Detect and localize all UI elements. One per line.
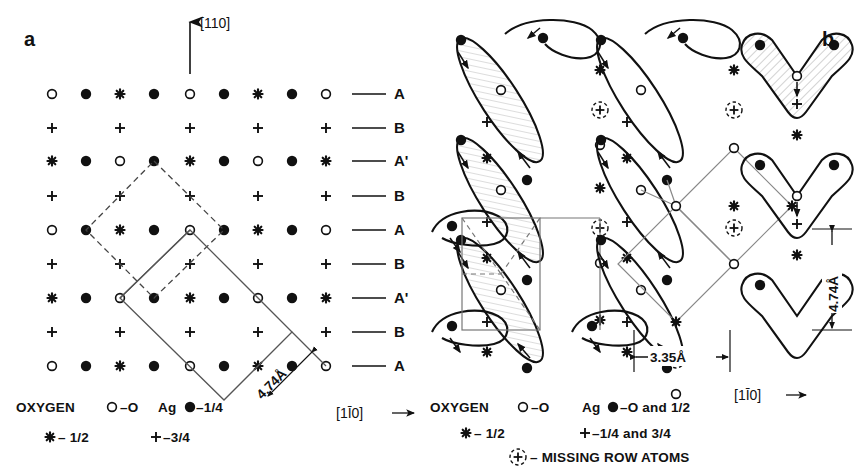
plus-silver xyxy=(253,259,263,269)
star-oxygen-half xyxy=(45,432,54,441)
star-oxygen-half xyxy=(185,156,194,165)
legend-ag-plus-a: –3/4 xyxy=(163,430,190,445)
lattice-row xyxy=(48,89,331,99)
v-shape-unit xyxy=(741,154,852,238)
star-oxygen-half xyxy=(115,225,124,234)
row-label-text: A' xyxy=(394,289,408,306)
filled-circle-silver xyxy=(81,361,91,371)
legend-ag-filled-b: –O and 1/2 xyxy=(620,400,690,415)
legend-a: OXYGEN –O Ag –1/4 – 1/2 –3/4 xyxy=(16,400,223,445)
direction-right-indicator-a: [1Ī0] xyxy=(336,405,414,421)
star-oxygen-half xyxy=(115,361,124,370)
plus-silver xyxy=(580,428,590,438)
lattice-row xyxy=(47,123,331,133)
legend-oxygen-star-b: – 1/2 xyxy=(474,426,505,441)
filled-circle-silver xyxy=(755,40,765,50)
filled-circle-silver xyxy=(81,156,91,166)
plus-silver xyxy=(253,327,263,337)
plus-silver xyxy=(321,123,331,133)
direction-right-label-a: [1Ī0] xyxy=(336,405,363,421)
filled-circle-silver xyxy=(185,402,195,412)
plus-silver xyxy=(47,191,57,201)
filled-circle-silver xyxy=(662,275,672,285)
dashed-circle-missing-row xyxy=(726,102,742,118)
direction-right-label-b: [1Ī0] xyxy=(734,387,761,403)
v-shape-unit xyxy=(741,34,852,118)
lattice-row xyxy=(47,156,330,166)
plus-silver xyxy=(792,219,802,229)
open-circle-oxygen xyxy=(48,90,57,99)
plus-silver xyxy=(321,191,331,201)
legend-missing-row-b: – MISSING ROW ATOMS xyxy=(530,450,690,465)
direction-up-indicator-a: [110] xyxy=(190,15,230,74)
open-circle-oxygen xyxy=(108,403,117,412)
plus-silver xyxy=(47,123,57,133)
star-oxygen-half xyxy=(115,89,124,98)
filled-circle-silver xyxy=(596,35,606,45)
plus-silver xyxy=(115,123,125,133)
filled-circle-silver xyxy=(287,293,297,303)
filled-circle-silver xyxy=(287,225,297,235)
lattice-row xyxy=(47,259,331,269)
star-oxygen-half xyxy=(253,89,262,98)
row-label-item: A' xyxy=(352,152,408,169)
row-label-item: B xyxy=(352,255,405,272)
ag-pair-ellipse-partial xyxy=(505,20,600,58)
filled-circle-silver xyxy=(456,135,466,145)
panel-a-letter: a xyxy=(24,28,36,50)
legend-ag-plus-b: –1/4 and 3/4 xyxy=(592,426,671,441)
legend-oxygen-star-a: – 1/2 xyxy=(58,430,89,445)
filled-circle-silver xyxy=(596,235,606,245)
cell-dimension-a: 4.74Å xyxy=(254,352,312,402)
dimension-horizontal-b: 3.35Å xyxy=(634,330,730,372)
filled-circle-silver xyxy=(538,33,548,43)
filled-circle-silver xyxy=(149,361,159,371)
filled-circle-silver xyxy=(219,89,229,99)
crystal-structure-figure: a [110] xyxy=(0,0,858,471)
dimension-vertical-b: 4.74Å xyxy=(812,229,852,330)
open-circle-oxygen xyxy=(497,86,506,95)
plus-silver xyxy=(47,259,57,269)
filled-circle-silver xyxy=(81,293,91,303)
direction-right-indicator-b: [1Ī0] xyxy=(734,387,806,403)
filled-circle-silver xyxy=(829,40,839,50)
open-circle-oxygen xyxy=(48,362,57,371)
star-oxygen-half xyxy=(622,347,631,356)
star-oxygen-half xyxy=(253,225,262,234)
filled-circle-silver xyxy=(149,89,159,99)
filled-circle-silver xyxy=(608,402,618,412)
open-circle-oxygen xyxy=(672,390,681,399)
plus-silver xyxy=(253,123,263,133)
open-circle-oxygen xyxy=(116,157,125,166)
star-oxygen-half xyxy=(185,293,194,302)
filled-circle-silver xyxy=(522,275,532,285)
filled-circle-silver xyxy=(456,35,466,45)
plus-silver xyxy=(321,259,331,269)
star-oxygen-half xyxy=(787,201,796,210)
open-circle-oxygen xyxy=(254,157,263,166)
row-label-text: B xyxy=(394,255,405,272)
plus-silver xyxy=(47,327,57,337)
legend-oxygen-open-a: –O xyxy=(120,400,138,415)
star-oxygen-half xyxy=(461,428,470,437)
star-oxygen-half xyxy=(47,156,56,165)
filled-circle-silver xyxy=(755,280,765,290)
panel-b: b xyxy=(430,20,853,465)
open-circle-oxygen xyxy=(793,192,802,201)
filled-circle-silver xyxy=(81,89,91,99)
star-oxygen-half xyxy=(729,201,738,210)
displacement-arrow xyxy=(450,338,460,352)
legend-oxygen-label-b: OXYGEN xyxy=(430,400,489,415)
row-label-item: B xyxy=(352,187,405,204)
filled-circle-silver xyxy=(587,321,597,331)
cell-dimension-label-a: 4.74Å xyxy=(254,366,290,402)
plus-silver xyxy=(115,327,125,337)
lattice-row xyxy=(47,293,330,303)
figure-root: a [110] xyxy=(0,0,858,471)
star-oxygen-half xyxy=(622,153,631,162)
row-label-text: A xyxy=(394,357,405,374)
open-circle-oxygen xyxy=(637,86,646,95)
filled-circle-silver xyxy=(522,363,532,373)
dimension-vertical-label-b: 4.74Å xyxy=(826,276,841,312)
star-oxygen-half xyxy=(595,183,604,192)
